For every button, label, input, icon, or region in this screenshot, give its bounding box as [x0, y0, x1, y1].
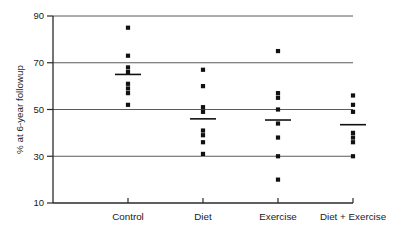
y-tick-label-30: 30: [33, 151, 44, 162]
data-point-control-2: [126, 65, 130, 69]
data-point-diet-2: [201, 105, 205, 109]
y-tick-label-70: 70: [33, 57, 44, 68]
data-point-exercise-3: [276, 107, 280, 111]
data-point-diet-exercise-2: [351, 110, 355, 114]
data-point-diet-0: [201, 68, 205, 72]
y-axis-title: % at 6-year followup: [14, 65, 25, 154]
data-point-diet-exercise-5: [351, 140, 355, 144]
y-tick-label-10: 10: [33, 197, 44, 208]
x-tick-label-3: Diet + Exercise: [320, 211, 387, 222]
data-point-exercise-7: [276, 178, 280, 182]
y-tick-label-90: 90: [33, 10, 44, 21]
data-point-exercise-4: [276, 121, 280, 125]
data-point-control-1: [126, 54, 130, 58]
data-point-control-0: [126, 26, 130, 30]
data-point-diet-exercise-4: [351, 135, 355, 139]
data-point-diet-1: [201, 84, 205, 88]
data-point-control-3: [126, 70, 130, 74]
data-point-control-7: [126, 103, 130, 107]
data-point-diet-exercise-1: [351, 103, 355, 107]
data-point-exercise-1: [276, 91, 280, 95]
data-point-diet-5: [201, 133, 205, 137]
data-point-diet-exercise-0: [351, 93, 355, 97]
scatter-chart: 1030507090ControlDietExerciseDiet + Exer…: [0, 0, 406, 232]
data-point-diet-4: [201, 128, 205, 132]
y-tick-label-50: 50: [33, 104, 44, 115]
data-point-control-6: [126, 91, 130, 95]
x-tick-label-2: Exercise: [259, 211, 297, 222]
data-point-diet-exercise-6: [351, 154, 355, 158]
data-point-exercise-0: [276, 49, 280, 53]
data-point-exercise-5: [276, 135, 280, 139]
data-point-exercise-2: [276, 96, 280, 100]
data-point-exercise-6: [276, 154, 280, 158]
x-tick-label-0: Control: [112, 211, 144, 222]
data-point-control-5: [126, 86, 130, 90]
data-point-diet-7: [201, 152, 205, 156]
data-point-diet-3: [201, 110, 205, 114]
data-point-control-4: [126, 82, 130, 86]
data-point-diet-6: [201, 140, 205, 144]
data-point-diet-exercise-3: [351, 131, 355, 135]
x-tick-label-1: Diet: [194, 211, 212, 222]
scatter-plot-figure: 1030507090ControlDietExerciseDiet + Exer…: [0, 0, 406, 232]
